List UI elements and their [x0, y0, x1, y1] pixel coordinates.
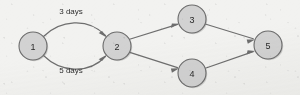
edge-2-to-3[interactable] — [130, 24, 180, 40]
edge-path-2-3 — [130, 24, 178, 39]
edge-path-2-4 — [130, 52, 178, 67]
arrowhead-2-3 — [171, 24, 179, 28]
node-2[interactable]: 2 — [103, 32, 132, 61]
edge-label-5-days: 5 days — [59, 66, 83, 75]
edge-label-3-days: 3 days — [59, 7, 83, 16]
edge-1-to-2-lower[interactable]: 5 days — [44, 55, 107, 75]
arrowhead-1-2-lower — [99, 55, 107, 61]
node-2-label: 2 — [114, 42, 119, 52]
edge-4-to-5[interactable] — [205, 50, 255, 68]
node-5-label: 5 — [265, 41, 270, 51]
edge-path-4-5 — [205, 52, 253, 69]
arrowhead-4-5 — [247, 50, 255, 54]
network-diagram-svg: 3 days 5 days — [0, 0, 300, 95]
node-5[interactable]: 5 — [254, 31, 283, 60]
edge-path-3-5 — [205, 24, 253, 39]
node-3-label: 3 — [189, 15, 194, 25]
edge-3-to-5[interactable] — [205, 24, 255, 44]
edge-path-1-2-upper — [44, 23, 106, 37]
node-4[interactable]: 4 — [178, 59, 207, 88]
node-3[interactable]: 3 — [178, 5, 207, 34]
edge-group: 3 days 5 days — [44, 7, 256, 75]
arrowhead-1-2-upper — [99, 31, 107, 37]
node-1[interactable]: 1 — [19, 32, 48, 61]
node-group: 1 2 3 4 5 — [19, 5, 283, 88]
node-4-label: 4 — [189, 69, 194, 79]
node-1-label: 1 — [30, 42, 35, 52]
edge-1-to-2-upper[interactable]: 3 days — [44, 7, 107, 38]
edge-2-to-4[interactable] — [130, 52, 180, 72]
network-diagram-canvas: 3 days 5 days — [0, 0, 300, 95]
